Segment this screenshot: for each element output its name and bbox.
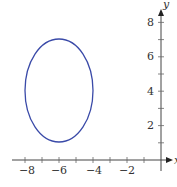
x-axis-label: x: [174, 154, 177, 167]
x-tick-label: −4: [86, 164, 102, 177]
y-axis-label: y: [162, 0, 170, 11]
y-tick-label: 4: [147, 85, 154, 98]
x-axis-arrow-icon: [166, 157, 173, 163]
y-tick-label: 6: [147, 50, 154, 63]
y-tick-label: 2: [147, 119, 154, 132]
x-tick-label: −2: [119, 164, 135, 177]
chart: −8 −6 −4 −2 8 6 4 2 y x: [0, 0, 177, 187]
x-tick-label: −8: [19, 164, 35, 177]
y-tick-label: 8: [147, 16, 154, 29]
ellipse-curve: [25, 39, 93, 142]
x-tick-label: −6: [51, 164, 67, 177]
